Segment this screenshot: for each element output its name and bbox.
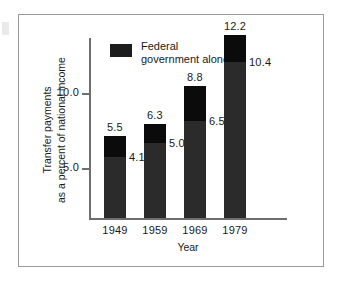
- y-axis-title: Transfer payments as a percent of nation…: [41, 40, 67, 220]
- bar-segment-other-1969: [184, 86, 206, 121]
- y-tick-10: [82, 93, 90, 95]
- bar-segment-federal-1969: [184, 121, 206, 219]
- y-axis-title-line2: as a percent of national income: [54, 57, 68, 203]
- bar-segment-other-1979: [224, 35, 246, 62]
- bar-segment-federal-1949: [104, 157, 126, 219]
- bar-1959[interactable]: [144, 124, 166, 219]
- bar-federal-label-1979: 10.4: [249, 56, 289, 68]
- legend-label-line2: government alone: [141, 53, 229, 66]
- bar-total-label-1969: 8.8: [175, 71, 215, 83]
- bar-total-label-1979: 12.2: [215, 20, 255, 32]
- y-axis-line: [89, 38, 91, 219]
- bar-segment-federal-1979: [224, 62, 246, 218]
- figure-container: 10.0 5.0 Transfer payments as a percent …: [0, 0, 341, 287]
- bar-total-label-1959: 6.3: [135, 109, 175, 121]
- x-label-1979: 1979: [212, 224, 258, 236]
- bar-1949[interactable]: [104, 136, 126, 219]
- legend-swatch-federal: [110, 44, 132, 57]
- bar-segment-other-1949: [104, 136, 126, 157]
- bar-1979[interactable]: [224, 35, 246, 218]
- y-axis-title-line1: Transfer payments: [41, 57, 55, 203]
- x-axis-title: Year: [89, 241, 287, 253]
- plot-area: 10.0 5.0 Transfer payments as a percent …: [0, 0, 341, 287]
- y-tick-5: [82, 168, 90, 170]
- bar-segment-federal-1959: [144, 143, 166, 218]
- y-axis-title-text: Transfer payments as a percent of nation…: [41, 57, 68, 203]
- bar-1969[interactable]: [184, 86, 206, 218]
- legend-label-line1: Federal: [141, 40, 229, 53]
- x-axis-line: [89, 218, 287, 220]
- bar-segment-other-1959: [144, 124, 166, 144]
- legend-label-federal: Federal government alone: [141, 40, 229, 65]
- bar-total-label-1949: 5.5: [95, 121, 135, 133]
